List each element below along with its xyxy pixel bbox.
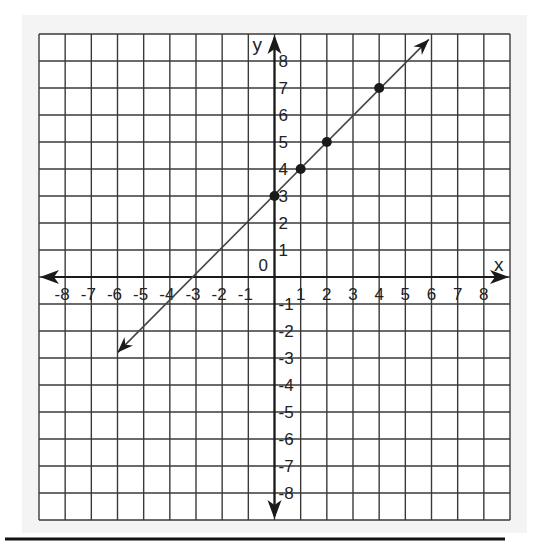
y-tick-label: 4 [279, 160, 288, 179]
x-tick-label: -1 [238, 285, 253, 304]
data-point [322, 137, 332, 147]
x-tick-label: -6 [107, 285, 122, 304]
x-tick-label: -7 [81, 285, 96, 304]
x-axis-label: x [494, 254, 504, 275]
x-tick-label: 2 [322, 285, 331, 304]
x-tick-label: -8 [55, 285, 70, 304]
x-tick-label: 8 [479, 285, 488, 304]
coordinate-plane: -8-7-6-5-4-3-2-11234567887654321-1-2-3-4… [0, 0, 548, 557]
y-tick-label: -7 [279, 457, 294, 476]
x-tick-label: -3 [185, 285, 200, 304]
x-tick-label: 4 [374, 285, 383, 304]
y-tick-label: -1 [279, 295, 294, 314]
y-tick-label: 5 [279, 133, 288, 152]
x-tick-label: 1 [296, 285, 305, 304]
y-tick-label: 8 [279, 52, 288, 71]
y-tick-label: 1 [279, 241, 288, 260]
x-tick-label: -5 [133, 285, 148, 304]
y-tick-label: -2 [279, 322, 294, 341]
y-tick-label: -4 [279, 376, 294, 395]
y-tick-label: -5 [279, 403, 294, 422]
y-axis-label: y [253, 34, 263, 55]
data-point [270, 191, 280, 201]
x-tick-label: -4 [159, 285, 174, 304]
x-tick-label: 6 [427, 285, 436, 304]
y-tick-label: 2 [279, 214, 288, 233]
data-point [374, 83, 384, 93]
x-tick-label: -2 [212, 285, 227, 304]
y-tick-label: -8 [279, 484, 294, 503]
x-tick-label: 3 [348, 285, 357, 304]
origin-label: 0 [259, 256, 268, 275]
y-tick-label: 6 [279, 106, 288, 125]
y-tick-label: -6 [279, 430, 294, 449]
y-tick-label: -3 [279, 349, 294, 368]
x-tick-label: 5 [401, 285, 410, 304]
x-tick-label: 7 [453, 285, 462, 304]
y-tick-label: 7 [279, 79, 288, 98]
data-point [296, 164, 306, 174]
